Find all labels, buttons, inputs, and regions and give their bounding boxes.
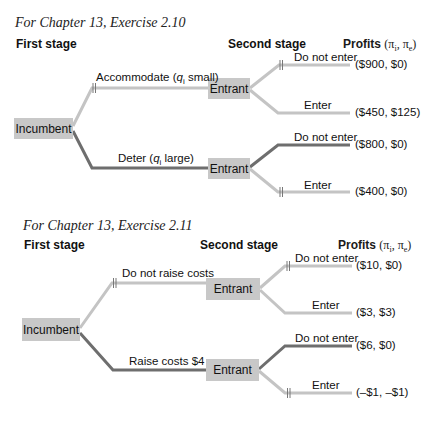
- node-entrant: Entrant: [206, 359, 259, 381]
- branch-do-not-raise: [80, 283, 206, 328]
- node-entrant: Entrant: [208, 158, 250, 179]
- branch-ea-do-not-enter: [260, 266, 352, 288]
- action-do-not-enter: Do not enter: [295, 332, 358, 344]
- branch-e2-enter: [250, 169, 350, 192]
- action-deter: Deter (qi large): [118, 152, 194, 167]
- header-first-stage: First stage: [24, 238, 85, 252]
- branch-e1-do-not-enter: [250, 65, 350, 88]
- branch-e1-enter: [250, 90, 350, 113]
- profits-label: Profits: [343, 37, 381, 51]
- action-do-not-enter: Do not enter: [295, 252, 358, 264]
- node-entrant: Entrant: [206, 278, 260, 300]
- profits-vars: (πi, πe): [384, 37, 416, 51]
- payoff: (–$1, –$1): [356, 386, 408, 398]
- action-accommodate: Accommodate (qi small): [96, 71, 219, 86]
- profits-label: Profits: [338, 238, 376, 252]
- payoff: ($400, $0): [355, 185, 407, 197]
- payoff: ($450, $125): [355, 106, 420, 118]
- action-do-not-raise-costs: Do not raise costs: [122, 267, 214, 279]
- branch-e2-do-not-enter: [250, 145, 350, 167]
- action-enter: Enter: [304, 99, 332, 111]
- header-second-stage: Second stage: [200, 238, 278, 252]
- profits-vars: (πi, πe): [379, 238, 411, 252]
- payoff: ($800, $0): [355, 138, 407, 150]
- payoff: ($6, $0): [356, 339, 396, 351]
- header-second-stage: Second stage: [228, 37, 306, 51]
- branch-accommodate: [73, 88, 208, 126]
- figure-title: For Chapter 13, Exercise 2.11: [23, 218, 193, 234]
- action-enter: Enter: [312, 299, 340, 311]
- action-raise-costs: Raise costs $4: [129, 355, 204, 367]
- node-incumbent: Incumbent: [22, 318, 80, 341]
- node-incumbent: Incumbent: [14, 118, 73, 139]
- action-do-not-enter: Do not enter: [294, 51, 357, 63]
- figure-title: For Chapter 13, Exercise 2.10: [15, 15, 186, 31]
- branch-eb-do-not-enter: [259, 346, 352, 369]
- header-first-stage: First stage: [16, 37, 77, 51]
- action-enter: Enter: [304, 179, 332, 191]
- payoff: ($10, $0): [356, 259, 402, 271]
- payoff: ($3, $3): [356, 306, 396, 318]
- action-do-not-enter: Do not enter: [294, 131, 357, 143]
- payoff: ($900, $0): [355, 58, 407, 70]
- action-enter: Enter: [312, 379, 340, 391]
